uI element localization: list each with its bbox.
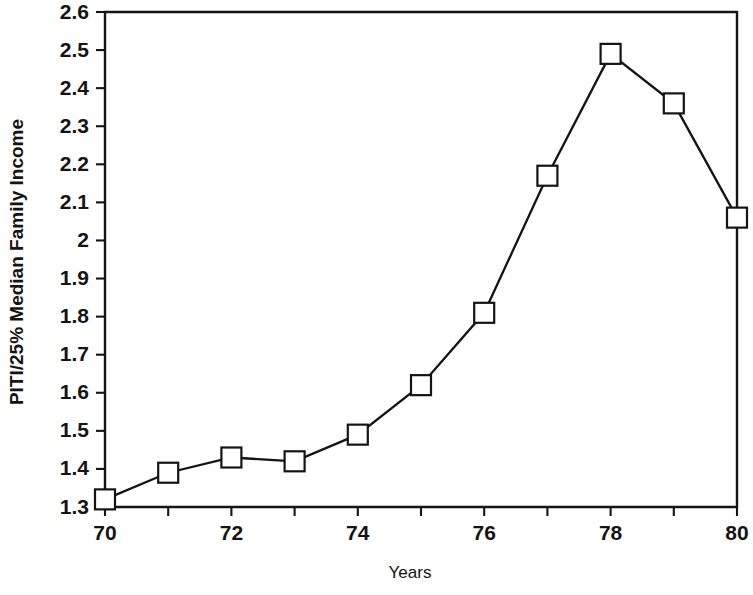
y-tick-label: 2.1	[60, 190, 90, 213]
y-tick-label: 1.7	[60, 342, 89, 365]
data-point-marker	[474, 303, 494, 323]
y-tick-label: 2.3	[60, 114, 89, 137]
y-tick-label: 2.5	[60, 38, 90, 61]
y-tick-label: 1.8	[60, 304, 90, 327]
y-tick-label: 2.4	[60, 76, 90, 99]
y-tick-label: 2.2	[60, 152, 89, 175]
data-point-marker	[95, 489, 115, 509]
chart-canvas: 1.31.41.51.61.71.81.922.12.22.32.42.52.6…	[0, 0, 753, 595]
line-chart: 1.31.41.51.61.71.81.922.12.22.32.42.52.6…	[0, 0, 753, 595]
y-tick-label: 1.9	[60, 266, 89, 289]
data-point-marker	[348, 425, 368, 445]
data-point-marker	[411, 375, 431, 395]
x-tick-label: 76	[473, 521, 496, 544]
data-point-marker	[601, 44, 621, 64]
x-tick-label: 70	[93, 521, 116, 544]
y-tick-label: 1.5	[60, 418, 90, 441]
y-tick-label: 1.4	[60, 456, 90, 479]
data-point-marker	[285, 451, 305, 471]
data-point-marker	[158, 463, 178, 483]
x-axis-title: Years	[389, 563, 432, 582]
y-tick-label: 1.3	[60, 495, 89, 518]
y-tick-label: 1.6	[60, 380, 89, 403]
data-point-marker	[537, 166, 557, 186]
x-tick-label: 74	[346, 521, 370, 544]
x-tick-label: 72	[220, 521, 243, 544]
data-point-marker	[727, 208, 747, 228]
data-point-marker	[221, 448, 241, 468]
x-tick-label: 80	[725, 521, 748, 544]
x-tick-label: 78	[599, 521, 623, 544]
y-axis-title: PITI/25% Median Family Income	[6, 119, 27, 405]
y-tick-label: 2.6	[60, 0, 89, 23]
data-point-marker	[664, 93, 684, 113]
y-tick-label: 2	[77, 228, 89, 251]
